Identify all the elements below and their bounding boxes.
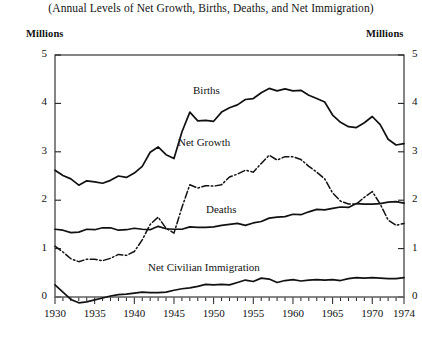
- y-tick-label-right-2: 2: [412, 192, 422, 204]
- series-label-births: Births: [193, 84, 220, 96]
- y-tick-label-left-4: 4: [33, 95, 47, 107]
- y-tick-label-left-0: 0: [33, 289, 47, 301]
- y-tick-label-right-5: 5: [412, 47, 422, 59]
- y-tick-label-right-1: 1: [412, 241, 422, 253]
- series-label-net-civilian-immigration: Net Civilian Immigration: [148, 261, 260, 273]
- x-tick-label-1965: 1965: [322, 307, 344, 319]
- x-tick-label-1974: 1974: [393, 307, 415, 319]
- x-tick-label-1945: 1945: [163, 307, 185, 319]
- x-tick-label-1955: 1955: [242, 307, 264, 319]
- x-tick-label-1950: 1950: [203, 307, 225, 319]
- y-tick-label-left-3: 3: [33, 144, 47, 156]
- plot-area: [0, 0, 422, 358]
- y-tick-label-left-1: 1: [33, 241, 47, 253]
- series-label-deaths: Deaths: [206, 203, 237, 215]
- y-tick-label-right-3: 3: [412, 144, 422, 156]
- x-tick-label-1970: 1970: [361, 307, 383, 319]
- series-label-net-growth: Net Growth: [178, 136, 230, 148]
- y-tick-label-right-4: 4: [412, 95, 422, 107]
- x-tick-label-1935: 1935: [84, 307, 106, 319]
- x-tick-label-1940: 1940: [123, 307, 145, 319]
- x-tick-label-1930: 1930: [44, 307, 66, 319]
- y-tick-label-left-5: 5: [33, 47, 47, 59]
- x-tick-label-1960: 1960: [282, 307, 304, 319]
- y-tick-label-left-2: 2: [33, 192, 47, 204]
- y-tick-label-right-0: 0: [412, 289, 422, 301]
- chart-container: (Annual Levels of Net Growth, Births, De…: [0, 0, 422, 358]
